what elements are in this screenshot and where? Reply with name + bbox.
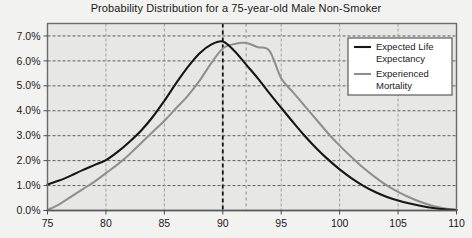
y-tick-label: 5.0% <box>17 79 41 91</box>
y-tick-label: 4.0% <box>17 104 41 116</box>
chart-container: Probability Distribution for a 75-year-o… <box>0 0 472 238</box>
x-tick-label: 75 <box>42 217 54 229</box>
legend-label: Expected Life <box>376 41 434 52</box>
y-tick-label: 2.0% <box>17 154 41 166</box>
y-tick-label: 7.0% <box>17 30 41 42</box>
y-tick-label: 6.0% <box>17 55 41 67</box>
x-tick-label: 100 <box>331 217 349 229</box>
x-tick-label: 95 <box>275 217 287 229</box>
x-tick-label: 85 <box>159 217 171 229</box>
x-tick-label: 105 <box>389 217 407 229</box>
x-tick-label: 80 <box>100 217 112 229</box>
x-tick-label: 90 <box>217 217 229 229</box>
legend-label: Expectancy <box>376 53 425 64</box>
legend-label: Experienced <box>376 68 429 79</box>
legend: Expected LifeExpectancyExperiencedMortal… <box>348 38 452 95</box>
chart-plot: 0.0%1.0%2.0%3.0%4.0%5.0%6.0%7.0%75808590… <box>0 0 472 238</box>
x-tick-label: 110 <box>448 217 465 229</box>
y-tick-label: 0.0% <box>17 204 41 216</box>
y-tick-label: 1.0% <box>17 179 41 191</box>
y-tick-label: 3.0% <box>17 129 41 141</box>
legend-label: Mortality <box>376 80 412 91</box>
